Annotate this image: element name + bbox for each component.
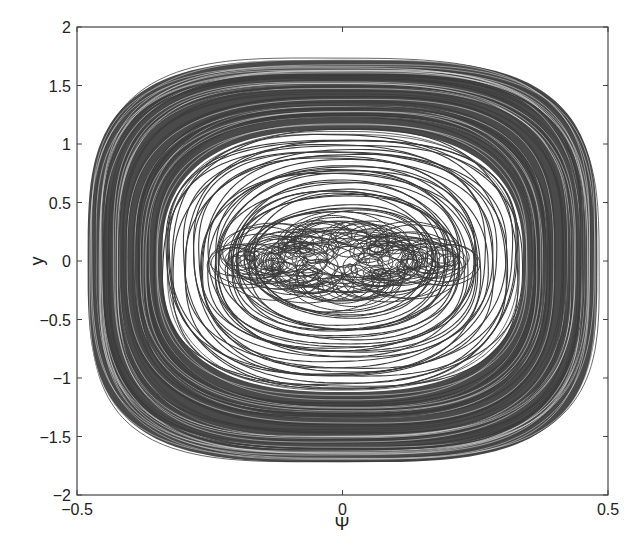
y-tick-label: 1 (62, 136, 71, 153)
y-axis-label: y (27, 257, 47, 266)
y-tick-label: 2 (62, 19, 71, 36)
phase-portrait-figure: −2−1.5−1−0.500.511.52 −0.500.5 Ψ y (0, 0, 638, 548)
y-tick-label: 0.5 (49, 195, 71, 212)
y-tick-label: −0.5 (39, 312, 71, 329)
y-tick-label: 1.5 (49, 78, 71, 95)
y-tick-label: −1.5 (39, 429, 71, 446)
x-tick-label: −0.5 (61, 501, 93, 518)
x-axis-label: Ψ (334, 514, 349, 534)
trajectory-layer (88, 58, 600, 462)
chart-canvas: −2−1.5−1−0.500.511.52 −0.500.5 Ψ y (0, 0, 638, 548)
y-tick-label: −1 (53, 370, 71, 387)
y-tick-label: 0 (62, 253, 71, 270)
x-tick-label: 0.5 (597, 501, 619, 518)
